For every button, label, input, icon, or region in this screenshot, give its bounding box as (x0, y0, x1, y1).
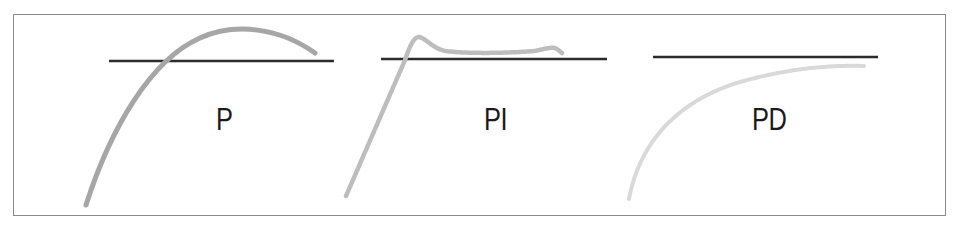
controller-response-diagram (0, 0, 960, 231)
panel-label-pi: PI (484, 104, 507, 135)
response-curve-p (86, 29, 315, 205)
panel-label-pd: PD (752, 104, 787, 135)
panel-pi (346, 37, 607, 196)
panel-label-p: P (216, 104, 233, 135)
panel-p (86, 29, 334, 205)
response-curve-pi (346, 37, 562, 196)
response-curve-pd (629, 66, 864, 199)
